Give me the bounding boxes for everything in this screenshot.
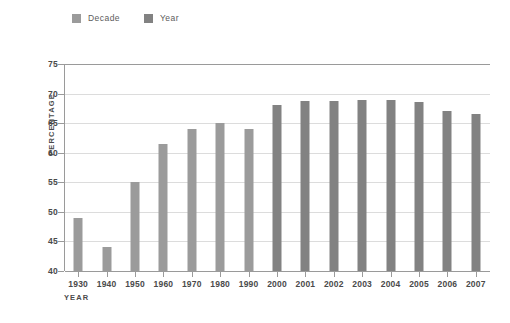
x-axis-title: YEAR xyxy=(64,293,89,302)
legend-item-decade: Decade xyxy=(72,14,120,23)
bar-1970[interactable] xyxy=(187,129,196,271)
bar-slot xyxy=(64,64,92,271)
bar-slot xyxy=(376,64,404,271)
bar-slot xyxy=(178,64,206,271)
x-axis-tickmark-1950 xyxy=(135,272,136,277)
y-axis-tick-50: 50 xyxy=(18,208,58,217)
chart-legend: Decade Year xyxy=(72,11,179,25)
bar-slot xyxy=(405,64,433,271)
bar-slot xyxy=(320,64,348,271)
x-axis-tickmark-1960 xyxy=(163,272,164,277)
x-axis-tickmark-2003 xyxy=(362,272,363,277)
bar-slot xyxy=(92,64,120,271)
x-axis-tickmark-2006 xyxy=(447,272,448,277)
x-axis-tickmark-2005 xyxy=(419,272,420,277)
legend-swatch-decade xyxy=(72,14,81,23)
bar-2003[interactable] xyxy=(358,100,367,272)
y-axis-tick-45: 45 xyxy=(18,237,58,246)
bar-slot xyxy=(121,64,149,271)
x-axis-tickmark-1970 xyxy=(192,272,193,277)
bar-slot xyxy=(433,64,461,271)
x-axis-tickmark-1980 xyxy=(220,272,221,277)
x-axis-tickmark-1940 xyxy=(107,272,108,277)
legend-item-year: Year xyxy=(144,14,179,23)
x-axis-tick-2007: 2007 xyxy=(456,280,496,289)
bar-1990[interactable] xyxy=(244,129,253,271)
bar-slot xyxy=(348,64,376,271)
bar-2001[interactable] xyxy=(301,101,310,271)
bar-2002[interactable] xyxy=(329,101,338,271)
x-axis: 1930194019501960197019801990200020012002… xyxy=(64,272,490,302)
bar-1950[interactable] xyxy=(130,182,139,271)
bar-2006[interactable] xyxy=(443,111,452,271)
x-axis-tickmark-1930 xyxy=(78,272,79,277)
bar-slot xyxy=(149,64,177,271)
x-axis-tickmark-1990 xyxy=(249,272,250,277)
y-axis-title: PERCENTAGE xyxy=(47,65,56,185)
bar-slot xyxy=(234,64,262,271)
bar-1930[interactable] xyxy=(74,218,83,271)
x-axis-tickmark-2000 xyxy=(277,272,278,277)
legend-label-decade: Decade xyxy=(88,14,120,23)
bar-slot xyxy=(291,64,319,271)
bar-slot xyxy=(462,64,490,271)
bar-slot xyxy=(263,64,291,271)
bar-2000[interactable] xyxy=(272,105,281,271)
x-axis-tickmark-2001 xyxy=(305,272,306,277)
bar-2007[interactable] xyxy=(471,114,480,271)
legend-swatch-year xyxy=(144,14,153,23)
bar-slot xyxy=(206,64,234,271)
bar-1960[interactable] xyxy=(159,144,168,271)
y-axis-tick-40: 40 xyxy=(18,267,58,276)
x-axis-tickmark-2007 xyxy=(476,272,477,277)
bar-1980[interactable] xyxy=(216,123,225,271)
legend-label-year: Year xyxy=(160,14,179,23)
bar-2004[interactable] xyxy=(386,100,395,272)
bar-1940[interactable] xyxy=(102,247,111,271)
bar-2005[interactable] xyxy=(414,102,423,271)
x-axis-tickmark-2004 xyxy=(391,272,392,277)
bars-layer xyxy=(64,64,490,271)
bar-chart: Decade Year 7570656055504540 PERCENTAGE … xyxy=(0,0,510,323)
x-axis-tickmark-2002 xyxy=(334,272,335,277)
